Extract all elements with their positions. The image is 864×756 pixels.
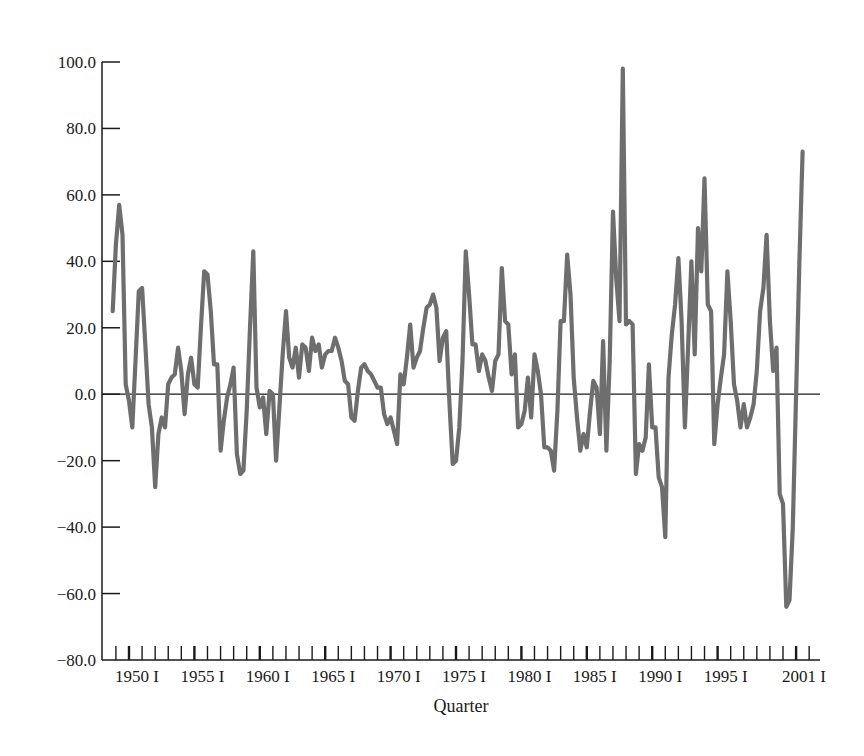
y-tick-label: −60.0 <box>57 585 96 604</box>
x-tick-label: 1950 I <box>115 667 159 686</box>
y-tick-label: −20.0 <box>57 452 96 471</box>
x-tick-label: 1975 I <box>442 667 486 686</box>
x-tick-label: 1960 I <box>246 667 290 686</box>
y-axis: 100.080.060.040.020.00.0−20.0−40.0−60.0−… <box>57 53 120 670</box>
x-tick-label: 1990 I <box>638 667 682 686</box>
x-tick-label: 1965 I <box>311 667 355 686</box>
x-tick-label: 1985 I <box>573 667 617 686</box>
x-tick-label: 1980 I <box>507 667 551 686</box>
y-tick-label: 0.0 <box>75 385 96 404</box>
y-tick-label: 40.0 <box>66 252 96 271</box>
x-tick-label: 1955 I <box>180 667 224 686</box>
data-series-line <box>113 69 803 607</box>
x-tick-label: 1995 I <box>704 667 748 686</box>
y-tick-label: −80.0 <box>57 651 96 670</box>
line-chart: 100.080.060.040.020.00.0−20.0−40.0−60.0−… <box>0 0 864 756</box>
x-tick-label: 1970 I <box>377 667 421 686</box>
x-axis-title: Quarter <box>434 696 489 716</box>
y-tick-label: 20.0 <box>66 319 96 338</box>
y-tick-label: 80.0 <box>66 119 96 138</box>
x-axis: 1950 I1955 I1960 I1965 I1970 I1975 I1980… <box>102 646 826 686</box>
x-tick-label: 2001 I <box>782 667 826 686</box>
y-tick-label: −40.0 <box>57 518 96 537</box>
y-tick-label: 100.0 <box>58 53 96 72</box>
y-tick-label: 60.0 <box>66 186 96 205</box>
